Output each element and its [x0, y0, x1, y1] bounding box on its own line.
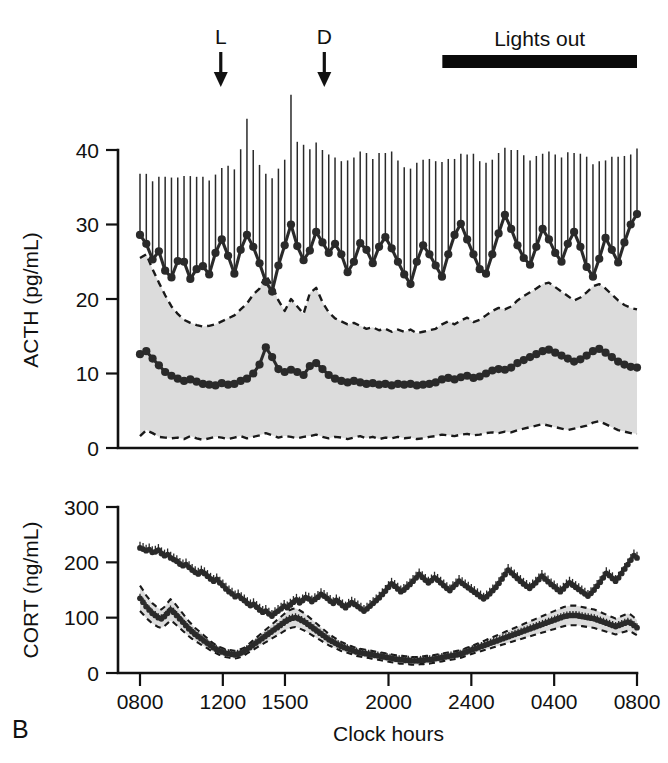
- data-point: [507, 225, 515, 233]
- data-point: [142, 347, 150, 355]
- data-point: [627, 220, 635, 228]
- data-point: [520, 254, 528, 262]
- lights-out-label: Lights out: [494, 27, 585, 50]
- data-point: [557, 258, 565, 266]
- data-point: [539, 225, 547, 233]
- data-point: [444, 250, 452, 258]
- light-on-arrow-head: [214, 72, 228, 87]
- dark-onset-label: D: [317, 25, 332, 48]
- data-point: [243, 231, 251, 239]
- data-point: [205, 270, 213, 278]
- data-point: [406, 280, 414, 288]
- data-point: [136, 231, 144, 239]
- phase-marker-arrows: LD: [214, 25, 332, 87]
- data-point: [400, 270, 408, 278]
- data-point: [243, 375, 251, 383]
- cort-x-tick-label: 0800: [614, 690, 661, 713]
- data-point: [331, 240, 339, 248]
- data-point: [318, 365, 326, 373]
- cort-axis-title: CORT (ng/mL): [19, 522, 42, 659]
- data-point: [287, 220, 295, 228]
- data-point: [413, 258, 421, 266]
- data-point: [344, 268, 352, 276]
- figure-svg: Lights out LD 010203040ACTH (pg/mL) 0100…: [0, 0, 668, 763]
- acth-y-tick-label: 20: [76, 288, 99, 311]
- acth-y-tick-label: 30: [76, 213, 99, 236]
- data-point: [570, 228, 578, 236]
- data-point: [551, 249, 559, 257]
- data-point: [142, 240, 150, 248]
- data-point: [281, 241, 289, 249]
- data-point: [634, 555, 640, 561]
- lights-out-annotation: Lights out: [442, 27, 637, 68]
- data-point: [633, 363, 641, 371]
- acth-y-tick-label: 0: [87, 437, 99, 460]
- data-point: [268, 353, 276, 361]
- data-point: [161, 267, 169, 275]
- data-point: [155, 247, 163, 255]
- data-point: [299, 256, 307, 264]
- data-point: [620, 238, 628, 246]
- data-point: [488, 250, 496, 258]
- data-point: [589, 273, 597, 281]
- cort-x-tick-label: 1200: [199, 690, 246, 713]
- data-point: [274, 261, 282, 269]
- data-point: [633, 210, 641, 218]
- data-point: [186, 275, 194, 283]
- data-point: [249, 369, 257, 377]
- cort-panel: 0100200300CORT (ng/mL)080012001500200024…: [19, 496, 660, 746]
- data-point: [532, 243, 540, 251]
- data-point: [432, 261, 440, 269]
- data-point: [148, 255, 156, 263]
- panel-label-b: B: [12, 715, 29, 743]
- data-point: [356, 239, 364, 247]
- acth-y-tick-label: 10: [76, 362, 99, 385]
- data-point: [218, 235, 226, 243]
- data-point: [450, 231, 458, 239]
- data-point: [419, 241, 427, 249]
- data-point: [614, 258, 622, 266]
- data-point: [394, 258, 402, 266]
- data-point: [337, 250, 345, 258]
- data-point: [482, 270, 490, 278]
- light-on-label: L: [215, 25, 227, 48]
- data-point: [501, 211, 509, 219]
- data-point: [268, 287, 276, 295]
- data-point: [255, 360, 263, 368]
- data-point: [381, 233, 389, 241]
- data-point: [595, 255, 603, 263]
- data-point: [564, 240, 572, 248]
- data-point: [293, 242, 301, 250]
- data-point: [457, 220, 465, 228]
- cort-y-tick-label: 300: [64, 496, 99, 519]
- data-point: [224, 252, 232, 260]
- data-point: [494, 229, 502, 237]
- data-point: [388, 244, 396, 252]
- data-point: [576, 243, 584, 251]
- cort-y-tick-label: 200: [64, 551, 99, 574]
- data-point: [262, 343, 270, 351]
- data-point: [155, 361, 163, 369]
- data-point: [306, 246, 314, 254]
- data-point: [180, 258, 188, 266]
- data-point: [583, 263, 591, 271]
- data-point: [318, 238, 326, 246]
- data-point: [199, 262, 207, 270]
- data-point: [350, 258, 358, 266]
- acth-axis-title: ACTH (pg/mL): [19, 232, 42, 367]
- data-point: [299, 371, 307, 379]
- cort-x-tick-label: 0400: [531, 690, 578, 713]
- cort-x-tick-label: 2400: [448, 690, 495, 713]
- cort-y-tick-label: 0: [87, 662, 99, 685]
- lights-out-bar: [442, 55, 637, 68]
- data-point: [262, 278, 270, 286]
- cort-low-markers: [137, 595, 640, 663]
- data-point: [211, 249, 219, 257]
- data-point: [249, 243, 257, 251]
- data-point: [526, 261, 534, 269]
- data-point: [608, 246, 616, 254]
- acth-y-tick-label: 40: [76, 139, 99, 162]
- cort-x-tick-label: 1500: [262, 690, 309, 713]
- data-point: [463, 235, 471, 243]
- data-point: [601, 234, 609, 242]
